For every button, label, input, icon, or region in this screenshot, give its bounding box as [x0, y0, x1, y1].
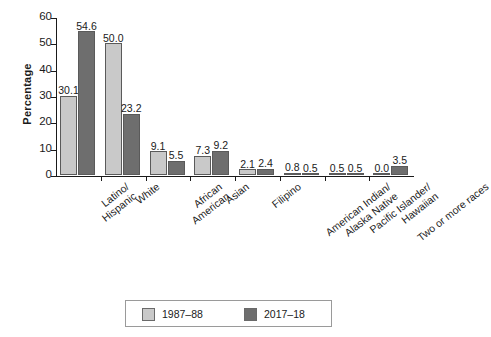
plot-area: 0102030405060 30.154.650.023.29.15.57.39…: [56, 18, 414, 176]
x-tick-mark: [280, 176, 281, 181]
y-tick-label: 0: [46, 168, 52, 180]
legend-label: 2017–18: [264, 308, 305, 320]
bar[interactable]: 5.5: [168, 161, 185, 175]
bar[interactable]: 9.2: [212, 151, 229, 175]
bar-group: 0.80.5: [280, 17, 325, 175]
legend-item[interactable]: 2017–18: [244, 307, 305, 321]
bar-value-label: 3.5: [392, 155, 407, 166]
y-tick-label: 40: [39, 63, 52, 75]
legend-swatch: [142, 308, 155, 321]
bar[interactable]: 23.2: [123, 114, 140, 175]
bar[interactable]: 2.4: [257, 169, 274, 175]
y-tick-label: 10: [39, 142, 52, 154]
bar[interactable]: 54.6: [78, 31, 95, 175]
x-axis-label: White: [134, 181, 162, 207]
legend-swatch: [244, 308, 257, 321]
legend-item[interactable]: 1987–88: [142, 307, 203, 321]
bar-value-label: 0.5: [303, 163, 318, 174]
x-tick-mark: [101, 176, 102, 181]
y-tick-label: 30: [39, 89, 52, 101]
bar-group: 2.12.4: [235, 17, 280, 175]
bar[interactable]: 50.0: [105, 43, 122, 175]
y-tick-label: 50: [39, 36, 52, 48]
bar-group: 0.50.5: [325, 17, 370, 175]
bar-value-label: 2.4: [258, 158, 273, 169]
bar-value-label: 0.5: [330, 163, 345, 174]
x-tick-mark: [146, 176, 147, 181]
x-tick-mark: [369, 176, 370, 181]
bar-value-label: 9.2: [213, 140, 228, 151]
bar-value-label: 2.1: [240, 159, 255, 170]
x-axis-label: AfricanAmerican: [183, 181, 232, 226]
bar-value-label: 30.1: [58, 85, 78, 96]
x-axis-label: Latino/Hispanic: [92, 181, 138, 224]
bar[interactable]: 0.5: [329, 173, 346, 175]
bar[interactable]: 30.1: [60, 96, 77, 175]
x-tick-mark: [190, 176, 191, 181]
bar-value-label: 0.5: [348, 163, 363, 174]
legend: 1987–882017–18: [125, 300, 332, 327]
x-axis-label: Asian: [224, 181, 252, 206]
bar[interactable]: 0.5: [302, 173, 319, 175]
bar-group: 0.03.5: [369, 17, 414, 175]
y-axis-title: Percentage: [21, 34, 33, 154]
y-tick-label: 20: [39, 115, 52, 127]
x-axis-label: Filipino: [270, 181, 303, 211]
bar-group: 50.023.2: [101, 17, 146, 175]
bar-value-label: 0.8: [285, 162, 300, 173]
bar-group: 7.39.2: [190, 17, 235, 175]
bar-value-label: 0.0: [374, 163, 389, 174]
bar[interactable]: 0.8: [284, 173, 301, 175]
bar[interactable]: 9.1: [150, 151, 167, 175]
bar-value-label: 23.2: [121, 103, 141, 114]
bar-group: 30.154.6: [56, 17, 101, 175]
bar-value-label: 7.3: [195, 145, 210, 156]
bar[interactable]: 2.1: [239, 169, 256, 175]
bar-group: 9.15.5: [146, 17, 191, 175]
bar-value-label: 50.0: [103, 33, 123, 44]
x-tick-mark: [235, 176, 236, 181]
bar-value-label: 54.6: [76, 21, 96, 32]
x-tick-mark: [325, 176, 326, 181]
bar[interactable]: 0.5: [347, 173, 364, 175]
y-tick-label: 60: [39, 10, 52, 22]
bar[interactable]: 3.5: [391, 166, 408, 175]
legend-label: 1987–88: [162, 308, 203, 320]
bar-value-label: 5.5: [169, 150, 184, 161]
bar-value-label: 9.1: [151, 141, 166, 152]
bar[interactable]: 7.3: [194, 156, 211, 175]
bar[interactable]: 0.0: [373, 173, 390, 175]
